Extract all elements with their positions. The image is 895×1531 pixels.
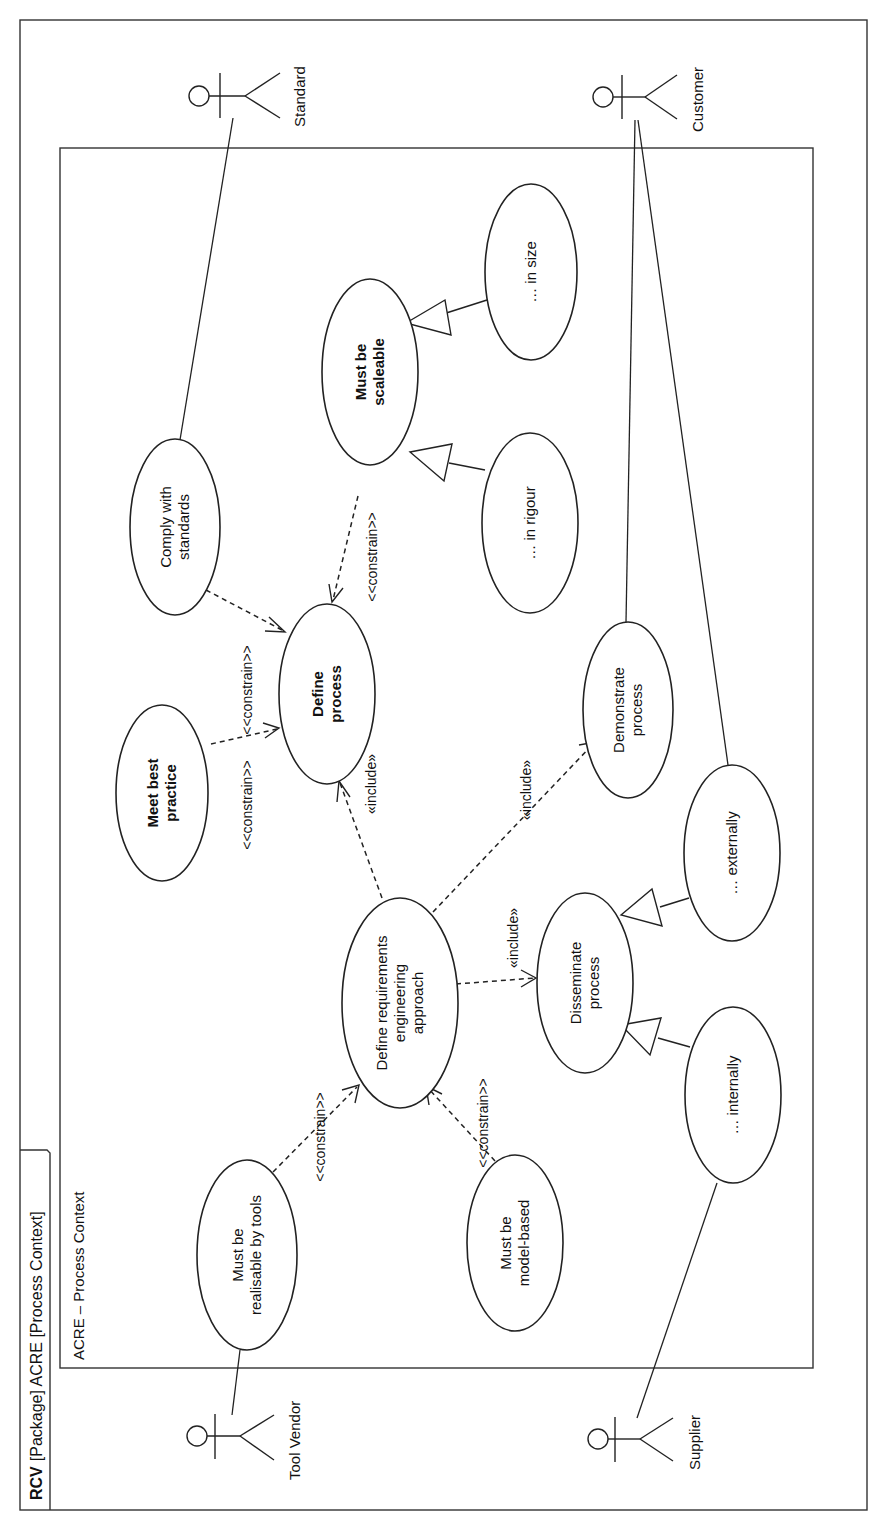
include-arrow-defineprocess bbox=[337, 781, 350, 802]
system-boundary-label: ACRE – Process Context bbox=[70, 1191, 87, 1360]
usecase-model-based[interactable]: Must be model-based bbox=[467, 1155, 563, 1331]
usecase-label-line2: process bbox=[628, 684, 645, 737]
usecase-define-requirements-engineering-approach[interactable]: Define requirements engineering approach bbox=[342, 898, 458, 1108]
include-rea-disseminate bbox=[456, 978, 535, 984]
usecase-label-line1: Must be bbox=[352, 344, 369, 401]
stick-figure-icon bbox=[189, 73, 280, 118]
assoc-toolvendor-tools bbox=[232, 1350, 240, 1415]
usecase-label-line2: standards bbox=[175, 494, 192, 560]
stick-figure-icon bbox=[187, 1414, 274, 1460]
usecase-label-line1: Comply with bbox=[157, 486, 174, 568]
usecase-label-line1: … externally bbox=[723, 811, 740, 895]
assoc-standard-comply bbox=[180, 118, 233, 440]
assoc-supplier-internally bbox=[637, 1183, 717, 1418]
gen-internally-disseminate bbox=[658, 1038, 690, 1047]
label-constrain-modelbased: <<constrain>> bbox=[475, 1078, 491, 1168]
label-include-disseminate: «include» bbox=[505, 908, 521, 968]
usecase-label-line2: model-based bbox=[515, 1200, 532, 1287]
gen-arrow-externally bbox=[621, 889, 662, 926]
actor-standard[interactable]: Standard bbox=[189, 66, 308, 127]
gen-externally-disseminate bbox=[660, 898, 689, 907]
label-constrain-scaleable: <<constrain>> bbox=[364, 512, 380, 602]
label-include-demonstrate: «include» bbox=[518, 760, 534, 820]
usecase-define-process[interactable]: Define process bbox=[279, 604, 375, 784]
actor-customer[interactable]: Customer bbox=[593, 67, 706, 132]
actor-tool-vendor[interactable]: Tool Vendor bbox=[187, 1401, 303, 1480]
usecase-label-line1: … in rigour bbox=[521, 486, 538, 559]
usecase-label-line2: process bbox=[327, 665, 344, 723]
actor-supplier[interactable]: Supplier bbox=[588, 1415, 703, 1470]
svg-text:RCV[Package] ACRE [Process Con: RCV[Package] ACRE [Process Context] bbox=[28, 1211, 45, 1500]
label-constrain-bestpractice: <<constrain>> bbox=[239, 760, 255, 850]
gen-inrigour-scaleable bbox=[449, 463, 485, 470]
usecase-internally[interactable]: … internally bbox=[685, 1007, 781, 1183]
usecase-label-line1: Must be bbox=[229, 1228, 246, 1281]
label-constrain-comply: <<constrain>> bbox=[239, 645, 255, 735]
actor-label: Customer bbox=[689, 67, 706, 132]
assoc-customer-demonstrate bbox=[626, 120, 635, 622]
dep-arrow-comply bbox=[265, 617, 285, 632]
include-rea-demonstrate bbox=[433, 743, 594, 912]
usecase-disseminate-process[interactable]: Disseminate process bbox=[537, 893, 633, 1073]
label-include-defineprocess: «include» bbox=[363, 754, 379, 814]
usecase-in-size[interactable]: … in size bbox=[485, 184, 577, 360]
usecase-label-line1: Define requirements bbox=[373, 935, 390, 1070]
usecase-realisable-by-tools[interactable]: Must be realisable by tools bbox=[197, 1160, 297, 1350]
usecase-label-line1: … internally bbox=[724, 1055, 741, 1135]
usecase-label-line2: scaleable bbox=[370, 338, 387, 406]
usecase-externally[interactable]: … externally bbox=[684, 765, 780, 941]
usecase-label-line1: Define bbox=[309, 671, 326, 717]
usecase-in-rigour[interactable]: … in rigour bbox=[482, 433, 578, 613]
usecase-label-line1: Must be bbox=[497, 1216, 514, 1269]
usecase-label-line2: engineering bbox=[391, 964, 408, 1042]
frame-title: RCV[Package] ACRE [Process Context] bbox=[28, 1211, 45, 1500]
usecase-label-line1: Demonstrate bbox=[610, 667, 627, 753]
frame-title-text: [Package] ACRE [Process Context] bbox=[28, 1211, 45, 1461]
stick-figure-icon bbox=[593, 75, 677, 119]
usecase-label-line2: practice bbox=[162, 764, 179, 822]
actor-label: Tool Vendor bbox=[286, 1401, 303, 1480]
usecase-comply-with-standards[interactable]: Comply with standards bbox=[130, 439, 220, 615]
dep-scaleable-defineprocess bbox=[333, 496, 358, 600]
use-case-diagram: RCV[Package] ACRE [Process Context] ACRE… bbox=[0, 0, 895, 1531]
usecase-label-line2: realisable by tools bbox=[247, 1195, 264, 1315]
actor-label: Supplier bbox=[686, 1415, 703, 1470]
usecase-label-line2: process bbox=[585, 957, 602, 1010]
usecase-label-line3: approach bbox=[409, 972, 426, 1035]
usecase-label-line1: Meet best bbox=[144, 758, 161, 827]
dep-arrow-bestpractice bbox=[263, 723, 279, 738]
usecase-label-line1: … in size bbox=[522, 241, 539, 303]
frame-kind: RCV bbox=[28, 1466, 45, 1500]
gen-arrow-inrigour bbox=[410, 444, 452, 481]
dep-comply-defineprocess bbox=[206, 590, 282, 630]
usecase-meet-best-practice[interactable]: Meet best practice bbox=[116, 705, 208, 881]
usecase-must-be-scaleable[interactable]: Must be scaleable bbox=[322, 279, 418, 465]
label-constrain-tools: <<constrain>> bbox=[312, 1092, 328, 1182]
actor-label: Standard bbox=[291, 66, 308, 127]
stick-figure-icon bbox=[588, 1417, 673, 1462]
usecase-demonstrate-process[interactable]: Demonstrate process bbox=[583, 622, 673, 798]
usecase-label-line1: Disseminate bbox=[567, 942, 584, 1025]
